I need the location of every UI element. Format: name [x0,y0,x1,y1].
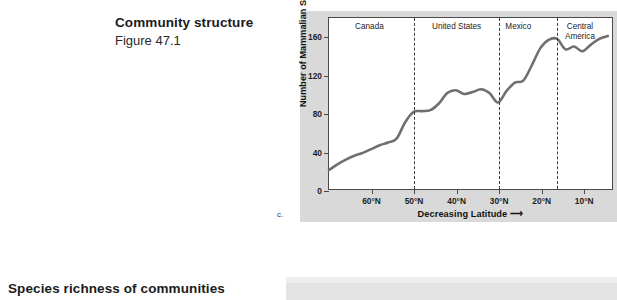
x-tick-mark [499,189,500,194]
region-divider-3 [557,18,558,189]
bottom-gray-panel [286,277,617,300]
plot-inner: CanadaUnited StatesMexicoCentral America… [329,18,612,189]
x-tick-label: 40°N [447,196,466,206]
slide-heading-block: Community structure Figure 47.1 [115,14,300,49]
x-tick-mark [372,189,373,194]
right-arrow-icon: ⟶ [510,207,523,218]
x-tick-label: 20°N [532,196,551,206]
region-label-central-america: Central America [535,22,617,42]
y-axis-title: Number of Mammalian Species [298,0,308,107]
page-title: Community structure [115,14,300,31]
region-label-canada: Canada [324,22,414,32]
y-tick-mark [324,76,329,77]
x-tick-label: 30°N [490,196,509,206]
y-tick-mark [324,114,329,115]
y-tick-label: 160 [308,32,322,42]
data-line-mammalian-species [329,36,608,170]
x-tick-mark [414,189,415,194]
x-tick-label: 10°N [575,196,594,206]
y-tick-label: 40 [313,148,322,158]
x-tick-label: 60°N [362,196,381,206]
x-tick-mark [457,189,458,194]
region-divider-2 [499,18,500,189]
y-tick-mark [324,191,329,192]
species-richness-line-chart [329,18,612,189]
bottom-section-title: Species richness of communities [8,281,225,296]
x-tick-mark [584,189,585,194]
figure-panel: Number of Mammalian Species Decreasing L… [300,11,617,222]
figure-caption: Figure 47.1 [115,32,300,49]
y-tick-label: 120 [308,71,322,81]
x-axis-title: Decreasing Latitude⟶ [328,207,613,219]
x-tick-label: 50°N [405,196,424,206]
figure-part-letter: c. [277,210,283,219]
bottom-gray-panel-inner [286,283,617,300]
slide-canvas: Community structure Figure 47.1 Number o… [0,0,617,300]
y-tick-mark [324,153,329,154]
x-axis-title-text: Decreasing Latitude [418,209,508,219]
y-tick-mark [324,37,329,38]
region-divider-1 [414,18,415,189]
plot-area: CanadaUnited StatesMexicoCentral America… [328,17,613,190]
y-tick-label: 0 [317,186,322,196]
x-tick-mark [542,189,543,194]
y-tick-label: 80 [313,109,322,119]
